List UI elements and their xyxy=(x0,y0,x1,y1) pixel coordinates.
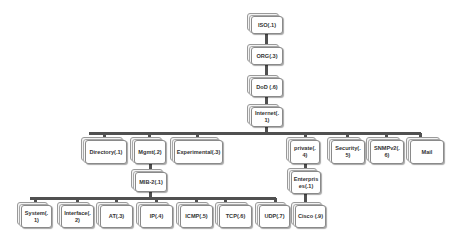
node-label: UDP(.7) xyxy=(263,213,285,220)
node-label: Mgmt(.2) xyxy=(137,149,162,156)
node-dod: DoD (.6) xyxy=(251,78,283,97)
node-udp: UDP(.7) xyxy=(259,205,290,228)
node-snmpv2: SNMPv2(.6) xyxy=(370,140,404,164)
node-interface: Interface(.2) xyxy=(61,205,94,228)
node-system: System(.1) xyxy=(21,205,52,228)
node-mgmt: Mgmt(.2) xyxy=(134,140,166,164)
node-label: ISO(.1) xyxy=(257,22,277,29)
node-label: TCP(.6) xyxy=(225,213,247,220)
node-enterprises: Enterprises(.1) xyxy=(291,171,321,194)
node-iso: ISO(.1) xyxy=(251,16,283,34)
node-directory: Directory(.1) xyxy=(85,140,127,164)
node-at: AT(.3) xyxy=(100,205,133,228)
node-label: DoD (.6) xyxy=(255,84,278,91)
node-label: private(.4) xyxy=(291,145,319,159)
node-cisco: Cisco (.9) xyxy=(295,205,326,228)
node-label: AT(.3) xyxy=(108,213,125,220)
node-label: System(.1) xyxy=(22,210,51,224)
node-mib2: MIB-2(.1) xyxy=(135,172,167,192)
bus-level2 xyxy=(89,132,421,135)
node-label: Cisco (.9) xyxy=(297,213,324,220)
node-label: Mail xyxy=(421,149,434,156)
node-label: Interface(.2) xyxy=(62,210,93,224)
node-private: private(.4) xyxy=(290,140,320,164)
node-label: Experimental(.3) xyxy=(176,149,222,156)
node-mail: Mail xyxy=(410,140,444,164)
node-experimental: Experimental(.3) xyxy=(174,140,223,164)
node-internet: Internet(.1) xyxy=(251,107,283,127)
bus-level3-ext xyxy=(224,197,276,200)
node-org: ORG(.3) xyxy=(251,47,283,65)
node-icmp: ICMP(.5) xyxy=(180,205,213,228)
node-label: IP(.4) xyxy=(149,213,165,220)
node-label: Enterprises(.1) xyxy=(292,176,320,190)
node-label: Directory(.1) xyxy=(89,149,124,156)
node-label: ICMP(.5) xyxy=(184,213,208,220)
node-ip: IP(.4) xyxy=(140,205,173,228)
node-label: MIB-2(.1) xyxy=(138,179,164,186)
node-label: Internet(.1) xyxy=(252,110,282,124)
node-label: Security(.5) xyxy=(332,145,364,159)
node-tcp: TCP(.6) xyxy=(219,205,252,228)
node-security: Security(.5) xyxy=(331,140,365,164)
node-label: ORG(.3) xyxy=(255,53,278,60)
oid-tree-diagram: ISO(.1) ORG(.3) DoD (.6) Internet(.1) Di… xyxy=(0,0,455,236)
node-label: SNMPv2(.6) xyxy=(371,145,403,159)
